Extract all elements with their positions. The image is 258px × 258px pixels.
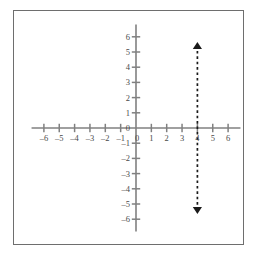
x-tick-label: 6 (226, 134, 230, 143)
y-axis-origin-label: 0 (119, 124, 130, 133)
x-tick-label: 3 (180, 134, 184, 143)
y-tick-label: 3 (119, 78, 130, 87)
x-tick-label: 5 (211, 134, 215, 143)
graph-figure: –6–5–4–3–2–1123456654321–1–2–3–4–5–600 (0, 0, 258, 258)
y-tick-label: 4 (119, 63, 130, 72)
x-tick-label: –5 (55, 134, 64, 143)
y-tick-label: 1 (119, 109, 130, 118)
arrowhead-down-icon (193, 207, 202, 214)
x-tick-label: 1 (149, 134, 153, 143)
axis-layer (32, 25, 241, 232)
arrowhead-up-icon (193, 42, 202, 49)
x-tick-label: –4 (70, 134, 79, 143)
y-tick-label: –5 (119, 200, 130, 209)
x-tick-label: –6 (40, 134, 49, 143)
y-tick-label: 2 (119, 93, 130, 102)
coordinate-plane: –6–5–4–3–2–1123456654321–1–2–3–4–5–600 (0, 0, 258, 258)
x-tick-label: 2 (165, 134, 169, 143)
y-tick-label: –2 (119, 154, 130, 163)
y-tick-label: 5 (119, 48, 130, 57)
y-tick-label: –4 (119, 185, 130, 194)
x-axis-origin-label: 0 (135, 134, 139, 143)
x-tick-label: –3 (86, 134, 95, 143)
y-tick-label: 6 (119, 33, 130, 42)
y-tick-label: –6 (119, 215, 130, 224)
x-tick-label: –2 (101, 134, 110, 143)
y-tick-label: –3 (119, 169, 130, 178)
y-tick-label: –1 (119, 139, 130, 148)
x-tick-label: 4 (195, 134, 199, 143)
